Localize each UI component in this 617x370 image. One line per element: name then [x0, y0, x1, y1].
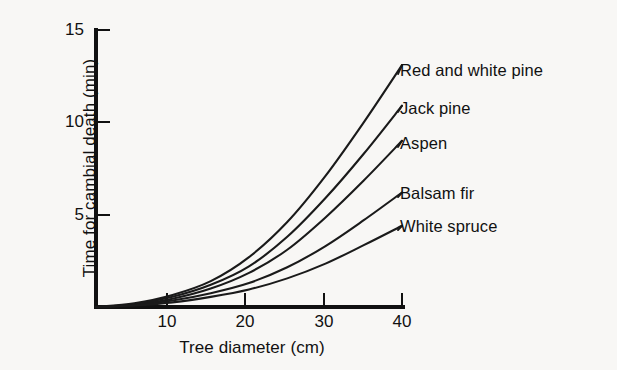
data-curves: [96, 65, 402, 307]
y-tick-label-15: 15: [44, 20, 84, 40]
curve-jack-pine: [96, 106, 402, 307]
line-chart-figure: Time for cambial death (min) Tree diamet…: [0, 0, 617, 370]
y-axis-title: Time for cambial death (min): [80, 18, 100, 318]
chart-page: Time for cambial death (min) Tree diamet…: [0, 0, 617, 370]
x-tick-label-20: 20: [225, 312, 265, 332]
y-tick-label-5: 5: [44, 205, 84, 225]
x-tick-label-40: 40: [382, 312, 422, 332]
x-tick-label-10: 10: [147, 312, 187, 332]
series-label-white-spruce: White spruce: [400, 217, 498, 236]
series-label-aspen: Aspen: [400, 134, 447, 153]
y-tick-label-10: 10: [44, 112, 84, 132]
x-tick-label-30: 30: [304, 312, 344, 332]
series-label-balsam-fir: Balsam fir: [400, 184, 474, 203]
series-label-jack-pine: Jack pine: [400, 99, 471, 118]
series-label-red-and-white-pine: Red and white pine: [400, 61, 543, 80]
curve-red-and-white-pine: [96, 65, 402, 307]
x-axis-title: Tree diameter (cm): [96, 338, 408, 358]
